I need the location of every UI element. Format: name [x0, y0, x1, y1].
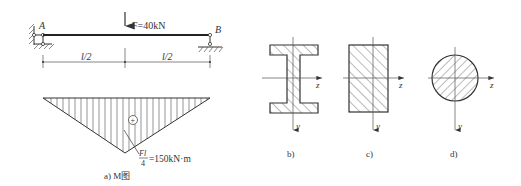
section-circle: z y d)	[428, 47, 494, 159]
dimension-line	[42, 48, 211, 68]
support-a-label: A	[38, 20, 46, 31]
max-moment-value: =150kN·m	[149, 154, 191, 164]
caption-d: d)	[450, 149, 458, 159]
force-label: F=40kN	[132, 20, 165, 31]
span-left-label: l/2	[81, 51, 92, 62]
z-label-d: z	[489, 80, 494, 90]
z-label-b: z	[315, 80, 320, 90]
max-moment-numerator: Fl	[138, 149, 147, 158]
y-label-d: y	[457, 121, 462, 131]
moment-caption: a) M图	[104, 171, 130, 181]
figure-canvas: A B F=40kN l/2 l/2	[0, 0, 521, 186]
y-label-b: y	[295, 121, 300, 131]
moment-diagram: + Fl 4 =150kN·m a) M图	[43, 98, 210, 181]
section-i-beam: z y b)	[262, 37, 322, 159]
caption-b: b)	[287, 149, 295, 159]
z-label-c: z	[398, 80, 403, 90]
support-b-icon	[198, 33, 223, 52]
max-moment-denominator: 4	[141, 159, 145, 168]
moment-sign: +	[131, 116, 136, 125]
span-right-label: l/2	[162, 51, 173, 62]
support-b-label: B	[215, 24, 221, 35]
section-rectangle: z y c)	[343, 37, 404, 159]
caption-c: c)	[366, 149, 373, 159]
y-label-c: y	[375, 121, 380, 131]
beam-diagram: A B F=40kN l/2 l/2	[29, 12, 223, 68]
moment-triangle	[43, 98, 210, 153]
